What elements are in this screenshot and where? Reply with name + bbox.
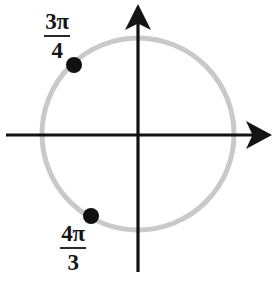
unit-circle-canvas xyxy=(0,0,274,282)
fraction-bar xyxy=(44,35,70,37)
angle-label-3pi-over-4: 3π 4 xyxy=(44,10,70,62)
numerator: 4π xyxy=(60,222,86,245)
numerator: 3π xyxy=(44,10,70,33)
fraction-bar xyxy=(60,247,86,249)
unit-circle-figure: 3π 4 4π 3 xyxy=(0,0,274,282)
denominator: 4 xyxy=(50,39,63,62)
denominator: 3 xyxy=(66,251,79,274)
angle-label-4pi-over-3: 4π 3 xyxy=(60,222,86,274)
